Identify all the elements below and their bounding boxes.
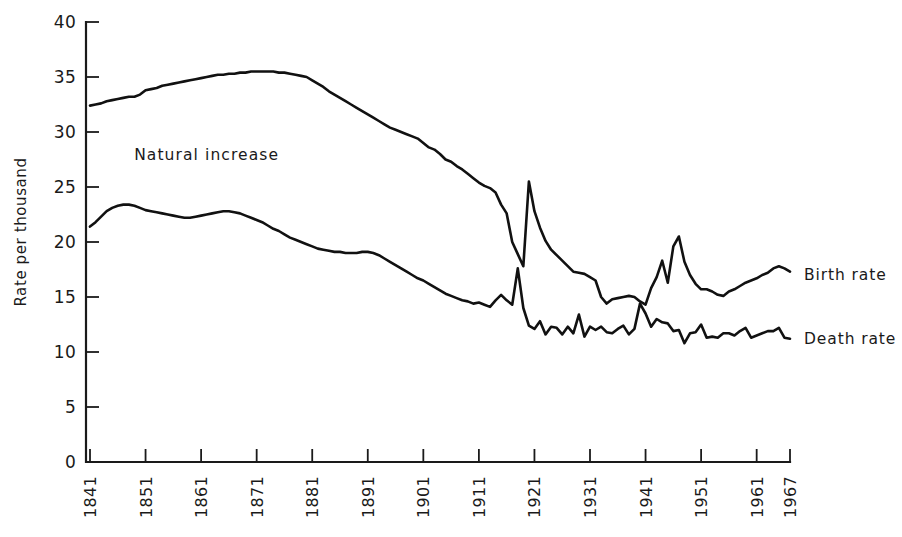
data-series-group <box>90 72 790 344</box>
y-axis-tick-label: 30 <box>54 122 76 142</box>
natural-increase-annotation: Natural increase <box>134 146 279 164</box>
death-rate-line <box>90 205 790 344</box>
y-axis-tick-label: 10 <box>54 342 76 362</box>
chart-axes <box>86 22 790 462</box>
x-axis-tick-label: 1967 <box>781 476 800 518</box>
x-axis-tick-label: 1941 <box>637 476 656 518</box>
birth-rate-label: Birth rate <box>804 266 887 284</box>
y-axis-ticks <box>86 22 99 462</box>
x-axis-tick-label: 1891 <box>359 476 378 518</box>
birth-rate-line <box>90 72 790 305</box>
x-axis-tick-label: 1861 <box>192 476 211 518</box>
x-axis-tick-label: 1881 <box>303 476 322 518</box>
y-axis-tick-label: 35 <box>54 67 76 87</box>
x-axis-tick-label: 1921 <box>525 476 544 518</box>
y-axis-tick-label: 15 <box>54 287 76 307</box>
chart-annotations: Natural increase <box>134 146 279 164</box>
x-axis-tick-label: 1841 <box>81 476 100 518</box>
y-axis-tick-labels: 0510152025303540 <box>54 12 76 472</box>
chart-container: Rate per thousand 0510152025303540 18411… <box>0 0 902 537</box>
x-axis-tick-label: 1911 <box>470 476 489 518</box>
x-axis-tick-label: 1851 <box>137 476 156 518</box>
y-axis-tick-label: 5 <box>65 397 76 417</box>
y-axis-tick-label: 0 <box>65 452 76 472</box>
y-axis-tick-label: 20 <box>54 232 76 252</box>
x-axis-tick-label: 1951 <box>692 476 711 518</box>
x-axis-tick-labels: 1841185118611871188118911901191119211931… <box>81 476 800 518</box>
series-inline-labels: Birth rate Death rate <box>804 266 896 348</box>
birth-death-rate-line-chart: Rate per thousand 0510152025303540 18411… <box>0 0 902 537</box>
death-rate-label: Death rate <box>804 330 896 348</box>
x-axis-tick-label: 1961 <box>748 476 767 518</box>
x-axis-tick-label: 1901 <box>414 476 433 518</box>
y-axis-tick-label: 25 <box>54 177 76 197</box>
y-axis-title-text: Rate per thousand <box>12 157 30 306</box>
y-axis-title: Rate per thousand <box>12 157 30 306</box>
y-axis-tick-label: 40 <box>54 12 76 32</box>
x-axis-ticks <box>90 449 790 462</box>
x-axis-tick-label: 1931 <box>581 476 600 518</box>
axis-lines <box>86 22 790 462</box>
x-axis-tick-label: 1871 <box>248 476 267 518</box>
